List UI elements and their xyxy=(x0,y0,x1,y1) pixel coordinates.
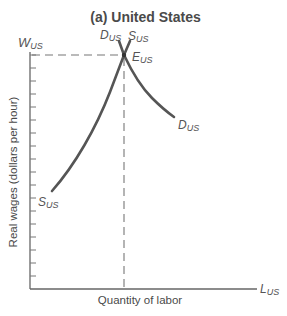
chart-plot xyxy=(0,0,287,316)
d-us-end-label: DUS xyxy=(178,119,199,133)
equilibrium-point xyxy=(122,53,126,57)
s-us-end-label: SUS xyxy=(38,196,59,210)
x-axis-label: Quantity of labor xyxy=(82,294,198,306)
y-axis-label: Real wages (dollars per hour) xyxy=(7,97,19,248)
s-us-top-label: SUS xyxy=(128,30,149,44)
d-us-top-label: DUS xyxy=(100,29,121,43)
w-us-label: WUS xyxy=(18,36,43,51)
supply-curve xyxy=(52,41,130,191)
y-axis-ticks xyxy=(30,55,36,276)
e-us-label: EUS xyxy=(132,51,153,65)
l-us-label: LUS xyxy=(260,283,279,297)
